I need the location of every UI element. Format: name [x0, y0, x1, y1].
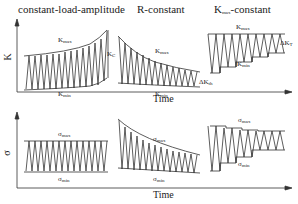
kmax-label-left: Kmax	[58, 37, 72, 44]
stress-signal-left	[26, 141, 107, 171]
kc-label: KC	[107, 51, 115, 58]
bottom-time-axis-arrow-icon	[285, 186, 292, 190]
kmin-curve-left	[24, 78, 107, 90]
k-axis-label: K	[3, 53, 13, 60]
delta-kth-label: ΔKth	[199, 79, 212, 86]
title-kmax-constant: Kmax-constant	[214, 4, 271, 15]
kmax-label-right: Kmax	[236, 24, 250, 31]
smax-steps-right	[210, 126, 285, 131]
k-axis-arrow-icon	[15, 19, 19, 26]
delta-kt-label: ΔKT	[280, 40, 293, 47]
smin-label-left: σmin	[58, 176, 70, 183]
sigma-axis-label: σ	[2, 150, 12, 155]
bottom-time-label: Time	[153, 190, 174, 200]
kmin-label-middle: Kmin	[155, 91, 168, 98]
title-r-constant: R-constant	[137, 4, 185, 15]
sigma-axis-arrow-icon	[15, 112, 19, 119]
smin-label-middle: σmin	[153, 176, 165, 183]
stress-signal-middle	[119, 120, 197, 173]
kmax-label-middle: Kmax	[155, 48, 169, 55]
kmin-label-left: Kmin	[58, 91, 71, 98]
smax-label-left: σmax	[58, 131, 70, 138]
kmin-label-right: Kmin	[237, 61, 250, 68]
top-time-axis-arrow-icon	[285, 90, 292, 94]
smin-label-right: σmin	[238, 161, 250, 168]
smax-label-right: σmax	[238, 117, 250, 124]
smax-label-middle: σmax	[153, 136, 165, 143]
title-constant-load-amplitude: constant-load-amplitude	[18, 4, 125, 15]
signal-middle	[119, 37, 197, 86]
diagram-canvas	[0, 0, 298, 204]
